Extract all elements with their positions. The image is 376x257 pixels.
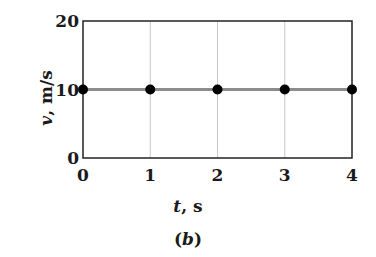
y-axis-label: v, m/s	[36, 58, 56, 138]
x-tick-label: 1	[144, 165, 156, 185]
x-tick-label: 0	[77, 165, 89, 185]
x-axis-label: t, s	[0, 196, 376, 216]
y-tick-label: 10	[55, 80, 79, 100]
y-tick-label: 20	[55, 11, 79, 31]
data-point	[280, 85, 290, 95]
data-point	[213, 85, 223, 95]
data-point	[78, 85, 88, 95]
y-axis-var: v	[36, 116, 56, 126]
y-axis-unit: , m/s	[36, 70, 56, 116]
caption-letter: b	[182, 229, 194, 249]
caption-paren-close: )	[194, 229, 202, 249]
data-point	[347, 85, 357, 95]
figure-caption: (b)	[0, 229, 376, 249]
figure: 0123401020 v, m/s t, s (b)	[0, 0, 376, 257]
x-tick-label: 4	[346, 165, 358, 185]
x-tick-label: 3	[279, 165, 291, 185]
x-axis-unit: , s	[181, 196, 202, 216]
caption-paren-open: (	[174, 229, 182, 249]
y-tick-label: 0	[67, 148, 79, 168]
plot: 0123401020	[0, 0, 376, 257]
x-tick-label: 2	[212, 165, 224, 185]
data-point	[145, 85, 155, 95]
